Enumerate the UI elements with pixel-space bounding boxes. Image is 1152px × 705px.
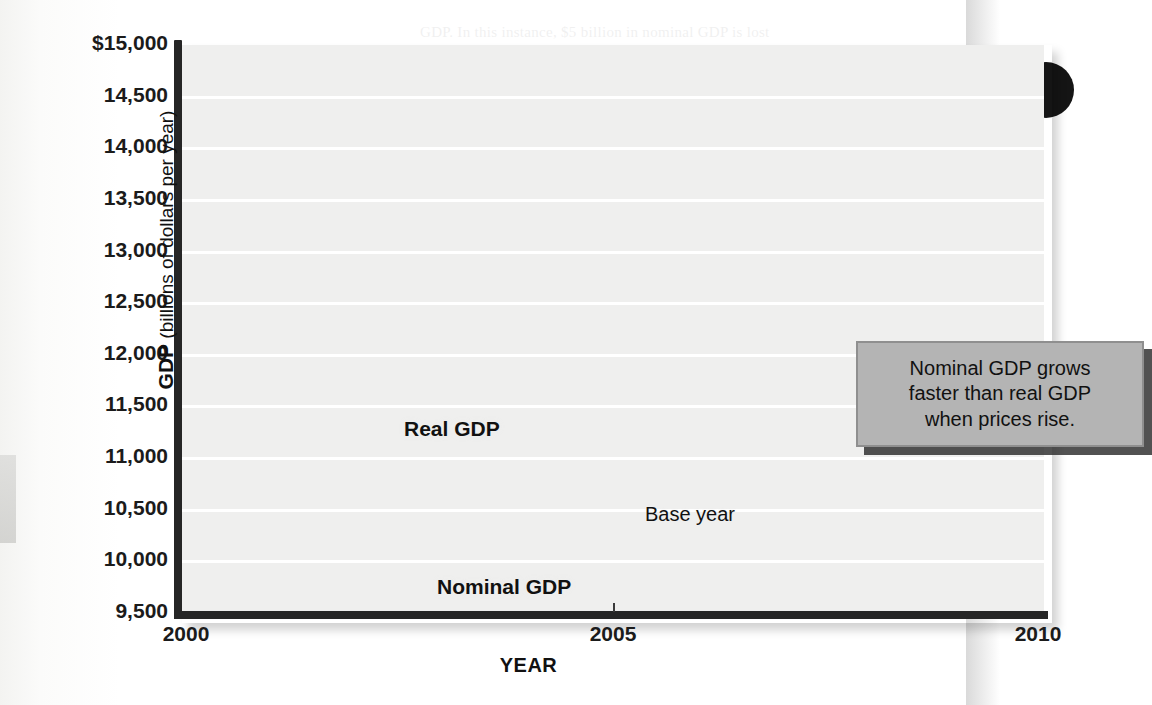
callout-line-3: when prices rise. <box>909 407 1091 433</box>
plot-area-background <box>182 45 1044 613</box>
y-axis-tick-labels: 9,50010,00010,50011,00011,50012,00012,50… <box>0 0 168 705</box>
base-year-label: Base year <box>645 503 735 526</box>
series-label-real-gdp: Real GDP <box>404 417 500 441</box>
y-axis-title-rest: (billions of dollars per year) <box>156 111 177 344</box>
x-axis-tick-label: 2005 <box>590 622 637 646</box>
x-axis-tick-mark <box>613 603 615 612</box>
x-axis <box>174 611 1048 619</box>
y-axis-tick-label: 10,500 <box>104 496 168 520</box>
gdp-chart: Real GDP Nominal GDP Base year Nominal G… <box>182 45 1044 613</box>
y-axis-tick-label: 9,500 <box>115 599 168 623</box>
callout-text: Nominal GDP grows faster than real GDP w… <box>899 356 1101 433</box>
gridline <box>182 302 1044 305</box>
y-axis-tick-label: $15,000 <box>92 31 168 55</box>
gridline <box>182 199 1044 202</box>
callout-box: Nominal GDP grows faster than real GDP w… <box>856 341 1144 447</box>
callout-line-1: Nominal GDP grows <box>909 356 1091 382</box>
y-axis-title-bold: GDP <box>154 344 177 390</box>
x-axis-tick-label: 2010 <box>1015 622 1062 646</box>
y-axis-tick-label: 11,000 <box>105 444 168 468</box>
y-axis-title: GDP (billions of dollars per year) <box>154 70 178 430</box>
x-axis-tick-label: 2000 <box>163 622 210 646</box>
gridline <box>182 147 1044 150</box>
gridline <box>182 560 1044 563</box>
callout-line-2: faster than real GDP <box>909 381 1091 407</box>
gridline <box>182 457 1044 460</box>
gridline <box>182 96 1044 99</box>
gridline <box>182 251 1044 254</box>
x-axis-title: YEAR <box>0 654 1057 677</box>
series-label-nominal-gdp: Nominal GDP <box>437 575 571 599</box>
y-axis-tick-label: 10,000 <box>104 547 168 571</box>
gridline <box>182 509 1044 512</box>
